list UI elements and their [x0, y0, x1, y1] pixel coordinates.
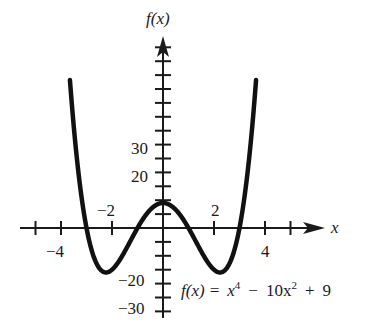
- x-tick-label-4: 4: [261, 242, 270, 261]
- x-axis-label: x: [330, 218, 339, 237]
- y-tick-label-neg30: −30: [118, 299, 145, 318]
- y-tick-label-20: 20: [131, 167, 148, 186]
- y-tick-label-30: 30: [131, 139, 148, 158]
- x-tick-label-neg2: −2: [97, 201, 115, 220]
- function-graph: f(x) x −4 −2 2 4 30 20 −20 −30 f(x) =x4−…: [0, 0, 367, 333]
- equation-label: f(x) =x4−10x2+9: [181, 279, 331, 300]
- y-axis-label: f(x): [146, 9, 170, 28]
- y-axis: [155, 36, 171, 318]
- x-tick-label-2: 2: [211, 201, 220, 220]
- x-axis: [20, 221, 325, 235]
- y-tick-label-neg20: −20: [118, 271, 145, 290]
- x-tick-label-neg4: −4: [46, 242, 65, 261]
